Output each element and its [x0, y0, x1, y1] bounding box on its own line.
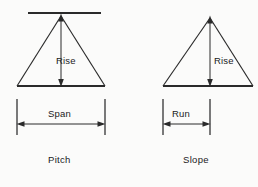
pitch-span-arrow-right-icon — [98, 121, 106, 126]
pitch-span-arrow-left-icon — [17, 121, 25, 126]
pitch-rise-arrow-up-icon — [58, 14, 64, 22]
pitch-caption: Pitch — [48, 154, 71, 165]
pitch-right-rafter — [61, 16, 105, 86]
slope-left-rafter — [163, 18, 210, 86]
diagram-pitch: Rise Span Pitch — [17, 13, 106, 165]
slope-run-label: Run — [172, 108, 190, 119]
slope-run-arrow-left-icon — [163, 121, 171, 126]
figure-canvas: Rise Span Pitch Rise — [0, 0, 258, 187]
slope-rise-arrow-up-icon — [207, 16, 213, 24]
pitch-left-rafter — [17, 16, 61, 86]
pitch-span-label: Span — [48, 108, 71, 119]
pitch-rise-label: Rise — [56, 55, 76, 66]
slope-caption: Slope — [183, 154, 209, 165]
roof-geometry-diagram: Rise Span Pitch Rise — [0, 0, 258, 187]
slope-right-rafter — [210, 18, 253, 86]
slope-run-arrow-right-icon — [203, 121, 211, 126]
slope-rise-label: Rise — [214, 55, 234, 66]
diagram-slope: Rise Run Slope — [163, 16, 254, 166]
